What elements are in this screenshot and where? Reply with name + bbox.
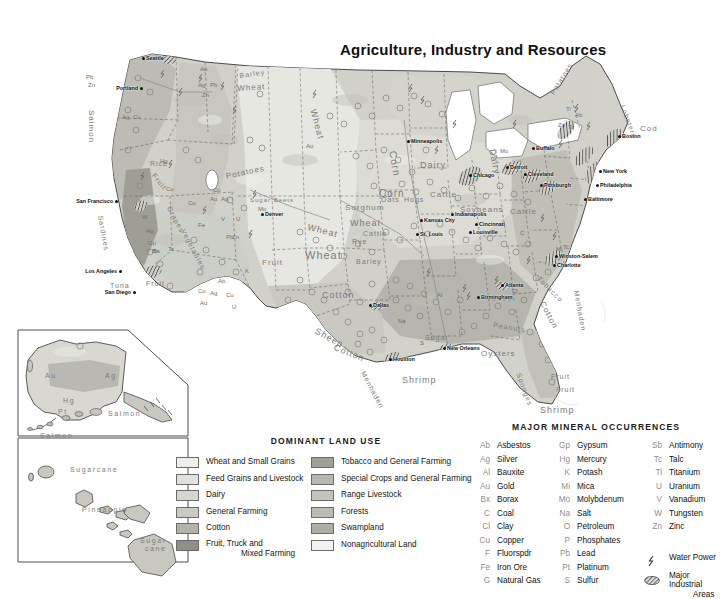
alaska-inset-map: [18, 330, 188, 436]
mineral-map-symbol: Ab: [575, 112, 582, 118]
land-use-label: Swampland: [341, 522, 384, 533]
mineral-abbreviation: Gp: [550, 441, 570, 450]
mineral-map-symbol: Zn: [558, 122, 565, 128]
city-label: Birmingham: [481, 294, 512, 300]
map-feature-label: Oysters: [481, 349, 516, 358]
mineral-abbreviation: Sb: [642, 441, 662, 450]
mineral-abbreviation: U: [642, 482, 662, 491]
mineral-map-symbol: Mo: [500, 148, 508, 154]
mineral-map-symbol: Cl: [512, 288, 518, 294]
mineral-legend-item: SSulfur: [550, 576, 642, 588]
city-marker: [140, 87, 143, 90]
land-use-legend-heading: DOMINANT LAND USE: [176, 436, 476, 446]
land-use-column-1: Wheat and Small GrainsFeed Grains and Li…: [176, 456, 311, 552]
mineral-legend-item: GNatural Gas: [470, 576, 550, 588]
mineral-abbreviation: Hg: [550, 455, 570, 464]
city-marker: [469, 231, 472, 234]
city-marker: [443, 347, 446, 350]
map-feature-label: Wheat: [350, 218, 381, 228]
mineral-map-symbol: Cu: [133, 114, 141, 120]
mineral-name: Potash: [577, 468, 603, 477]
land-use-label: Wheat and Small Grains: [206, 456, 295, 467]
alaska-inset-label: Au: [45, 372, 57, 379]
mineral-name: Zinc: [669, 522, 684, 531]
city-label: Charlotte: [557, 262, 581, 268]
city-label: San Diego: [105, 289, 131, 295]
land-use-legend-item: Feed Grains and Livestock: [176, 473, 311, 486]
city-label: Portland: [116, 85, 138, 91]
city-marker: [553, 264, 556, 267]
mineral-column-2: GpGypsumHgMercuryKPotashMiMicaMoMolybden…: [550, 441, 642, 588]
mineral-legend-item: AuGold: [470, 482, 550, 494]
mineral-map-symbol: Al: [437, 292, 442, 298]
map-feature-label: Cattle: [363, 230, 387, 237]
city-marker: [133, 291, 136, 294]
city-label: Buffalo: [536, 145, 555, 151]
mineral-abbreviation: Au: [470, 482, 490, 491]
map-feature-label: Fruit: [146, 280, 165, 287]
city-label: Louisville: [473, 229, 498, 235]
legend-spacer: [642, 536, 722, 548]
mineral-legend-item: HgMercury: [550, 455, 642, 467]
mineral-abbreviation: Pb: [550, 549, 570, 558]
city-label: Denver: [265, 211, 283, 217]
land-use-swatch: [311, 457, 334, 468]
mineral-map-symbol: Cu: [188, 200, 196, 206]
mineral-map-symbol: Ab: [218, 278, 225, 284]
mineral-name: Asbestos: [497, 441, 531, 450]
mineral-abbreviation: Al: [470, 468, 490, 477]
mineral-legend-item: VVanadium: [642, 495, 722, 507]
land-use-legend-item: Nonagricultural Land: [311, 539, 476, 552]
mineral-legend-item: GpGypsum: [550, 441, 642, 453]
land-use-legend-item: Dairy: [176, 489, 311, 502]
mineral-abbreviation: Ti: [642, 468, 662, 477]
map-feature-label: Wheat: [305, 249, 342, 261]
city-marker: [475, 223, 478, 226]
land-use-label: Dairy: [206, 489, 225, 500]
city-label: Houston: [393, 356, 415, 362]
mineral-map-symbol: Zn: [232, 234, 239, 240]
mineral-name: Gypsum: [577, 441, 607, 450]
mineral-map-symbol: Tc: [563, 244, 569, 250]
mineral-name: Clay: [497, 522, 513, 531]
land-use-swatch: [176, 457, 199, 468]
mineral-legend-item: CuCopper: [470, 536, 550, 548]
map-feature-label: Sugar Beets: [250, 197, 294, 203]
land-use-legend-item: Forests: [311, 506, 476, 519]
land-use-label-line2: Mixed Farming: [206, 549, 295, 560]
mineral-map-symbol: Gp: [148, 240, 156, 246]
land-use-legend-item: General Farming: [176, 506, 311, 519]
mineral-name: Mica: [577, 482, 594, 491]
mineral-legend-item: AbAsbestos: [470, 441, 550, 453]
mineral-legend-extra-label: Major IndustrialAreas: [669, 571, 722, 599]
map-feature-label: Rye: [352, 238, 367, 245]
mineral-abbreviation: Zn: [642, 522, 662, 531]
mineral-name: Natural Gas: [497, 576, 541, 585]
mineral-abbreviation: O: [550, 522, 570, 531]
city-label: St. Louis: [420, 231, 443, 237]
mineral-map-symbol: Au: [200, 66, 207, 72]
mineral-map-symbol: K: [245, 268, 249, 274]
mineral-map-symbol: Mo: [258, 206, 266, 212]
land-use-label: Forests: [341, 506, 368, 517]
mineral-name: Mercury: [577, 455, 607, 464]
alaska-inset-label: Pt: [58, 408, 68, 415]
mineral-abbreviation: S: [550, 576, 570, 585]
mineral-abbreviation: Mo: [550, 495, 570, 504]
mineral-legend-extra-label-line2: Areas: [669, 590, 722, 599]
map-feature-label: Cattle: [430, 190, 457, 199]
land-use-legend-item: Special Crops and General Farming: [311, 473, 476, 486]
city-marker: [369, 304, 372, 307]
mineral-name: Phosphates: [577, 536, 620, 545]
land-use-label: Nonagricultural Land: [341, 539, 417, 550]
mineral-map-symbol: Hg: [160, 158, 168, 164]
city-marker: [469, 174, 472, 177]
city-label: Cincinnati: [479, 221, 505, 227]
city-marker: [584, 198, 587, 201]
mineral-abbreviation: W: [642, 509, 662, 518]
mineral-legend-item: KPotash: [550, 468, 642, 480]
city-marker: [451, 213, 454, 216]
mineral-map-symbol: U: [232, 304, 236, 310]
land-use-label: Cotton: [206, 522, 230, 533]
mineral-abbreviation: Mi: [550, 482, 570, 491]
